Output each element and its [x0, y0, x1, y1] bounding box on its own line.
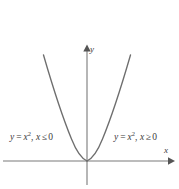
left-label-value: 0: [48, 132, 53, 142]
right-label-equals: =: [120, 132, 125, 142]
graph-canvas: [0, 0, 179, 189]
parabola-figure: y x y=x2,x≤0 y=x2,x≥0: [0, 0, 179, 189]
parabola-right-branch: [87, 55, 131, 161]
y-axis-label: y: [90, 45, 94, 54]
right-label-relation: ≥: [146, 132, 151, 142]
x-axis-arrowhead: [168, 157, 175, 165]
left-label-relation: ≤: [42, 132, 47, 142]
right-label-y: y: [114, 132, 118, 142]
left-label-variable: x: [36, 132, 40, 142]
x-axis-label: x: [164, 146, 168, 155]
left-branch-equation-label: y=x2,x≤0: [10, 133, 53, 143]
right-label-variable: x: [140, 132, 144, 142]
right-label-value: 0: [152, 132, 157, 142]
right-branch-equation-label: y=x2,x≥0: [114, 133, 157, 143]
left-label-comma: ,: [31, 132, 33, 142]
left-label-y: y: [10, 132, 14, 142]
left-label-equals: =: [16, 132, 21, 142]
parabola-left-branch: [44, 55, 88, 161]
right-label-comma: ,: [135, 132, 137, 142]
